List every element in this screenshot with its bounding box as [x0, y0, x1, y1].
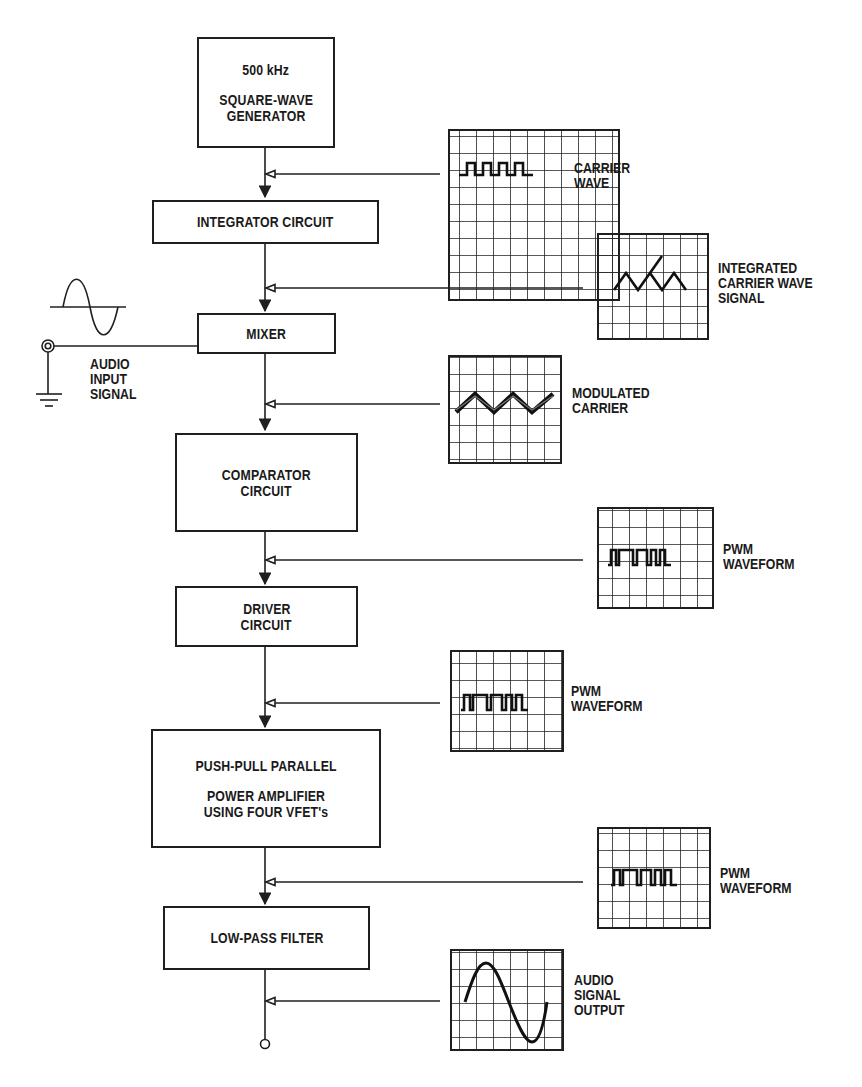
block-label: SQUARE-WAVE: [219, 92, 313, 108]
modulated-carrier-label: MODULATED CARRIER: [572, 385, 650, 415]
square-wave-generator-block: 500 kHz SQUARE-WAVE GENERATOR: [197, 37, 335, 148]
block-label: CIRCUIT: [241, 483, 292, 499]
block-label: COMPARATOR: [222, 467, 311, 483]
block-label: PUSH-PULL PARALLEL: [195, 758, 336, 774]
scope-pwm-1: [598, 508, 713, 608]
integrated-carrier-label: INTEGRATED CARRIER WAVE SIGNAL: [718, 260, 813, 305]
block-label: MIXER: [247, 326, 287, 342]
scope-pwm-3: [598, 828, 710, 928]
comparator-circuit-block: COMPARATOR CIRCUIT: [175, 433, 358, 532]
scope-integrated: [598, 234, 708, 339]
block-label: GENERATOR: [227, 108, 306, 124]
scope-modulated: [449, 356, 561, 463]
integrator-circuit-block: INTEGRATOR CIRCUIT: [152, 200, 379, 244]
carrier-wave-label: CARRIER WAVE: [574, 160, 630, 190]
low-pass-filter-block: LOW-PASS FILTER: [163, 906, 370, 970]
block-label: POWER AMPLIFIER: [207, 788, 325, 804]
block-label: CIRCUIT: [241, 617, 292, 633]
scope-pwm-2: [451, 651, 563, 751]
audio-input-signal-label: AUDIO INPUT SIGNAL: [90, 356, 136, 401]
block-label: USING FOUR VFET's: [204, 804, 329, 820]
block-label: INTEGRATOR CIRCUIT: [197, 214, 333, 230]
pwm-waveform-label-2: PWM WAVEFORM: [571, 683, 643, 713]
block-label: LOW-PASS FILTER: [210, 930, 323, 946]
power-amplifier-block: PUSH-PULL PARALLEL POWER AMPLIFIER USING…: [151, 729, 381, 848]
mixer-block: MIXER: [197, 313, 336, 354]
driver-circuit-block: DRIVER CIRCUIT: [175, 586, 358, 647]
pwm-waveform-label-1: PWM WAVEFORM: [723, 541, 795, 571]
scope-output: [451, 950, 563, 1050]
audio-signal-output-label: AUDIO SIGNAL OUTPUT: [574, 972, 625, 1017]
pwm-waveform-label-3: PWM WAVEFORM: [720, 865, 792, 895]
block-label: DRIVER: [243, 601, 290, 617]
scope-carrier: [449, 130, 619, 300]
block-label: 500 kHz: [243, 62, 290, 78]
